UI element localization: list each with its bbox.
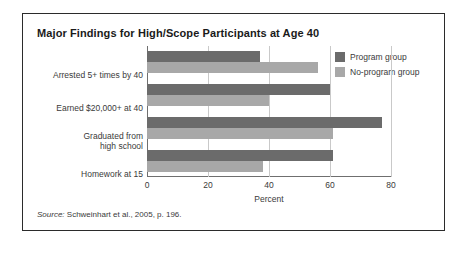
bar [147, 117, 382, 128]
bar [147, 150, 333, 161]
bar-group [147, 84, 391, 108]
bar [147, 84, 330, 95]
bar-group [147, 51, 391, 75]
bar-group [147, 117, 391, 141]
category-label: Earned $20,000+ at 40 [31, 103, 143, 113]
y-axis-category-labels: Arrested 5+ times by 40Earned $20,000+ a… [29, 59, 143, 190]
source-prefix: Source: [37, 210, 65, 219]
category-label-line: Graduated from [31, 131, 143, 141]
bar [147, 51, 260, 62]
chart-title: Major Findings for High/Scope Participan… [37, 27, 319, 39]
x-tick-0: 0 [145, 180, 150, 190]
source-note: Source: Schweinhart et al., 2005, p. 196… [37, 210, 182, 219]
category-label-line: Earned $20,000+ at 40 [31, 103, 143, 113]
bar [147, 161, 263, 172]
figure-frame: Major Findings for High/Scope Participan… [22, 13, 445, 231]
x-axis-label: Percent [147, 194, 391, 204]
bar [147, 62, 318, 73]
bar [147, 95, 269, 106]
category-label: Graduated fromhigh school [31, 131, 143, 151]
category-label-line: Arrested 5+ times by 40 [31, 70, 143, 80]
category-label-line: high school [31, 141, 143, 151]
bar [147, 128, 333, 139]
category-label-line: Homework at 15 [31, 169, 143, 179]
x-tick-20: 20 [203, 180, 212, 190]
source-citation: Schweinhart et al., 2005, p. 196. [65, 210, 182, 219]
gridline-80 [391, 46, 392, 177]
category-label: Homework at 15 [31, 169, 143, 179]
plot-area [147, 46, 391, 177]
x-tick-60: 60 [325, 180, 334, 190]
x-tick-40: 40 [264, 180, 273, 190]
bar-group [147, 150, 391, 174]
category-label: Arrested 5+ times by 40 [31, 70, 143, 80]
x-axis-tick-labels: 020406080 [147, 180, 391, 192]
x-tick-80: 80 [386, 180, 395, 190]
